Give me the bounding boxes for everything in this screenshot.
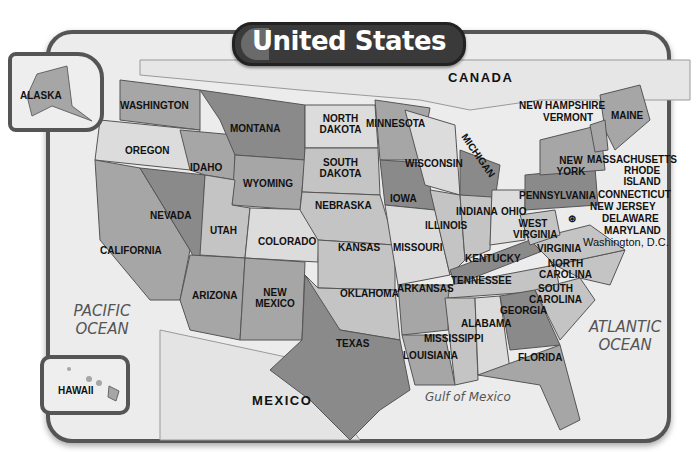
label-new-jersey: NEW JERSEY: [590, 201, 656, 212]
label-vermont: VERMONT: [543, 112, 593, 123]
label-ohio: OHIO: [501, 206, 527, 217]
label-california: CALIFORNIA: [100, 245, 162, 256]
capital-star-icon: ⊛: [568, 213, 576, 224]
label-missouri: MISSOURI: [393, 242, 442, 253]
label-nevada: NEVADA: [150, 210, 191, 221]
label-hawaii: HAWAII: [58, 385, 94, 396]
label-florida: FLORIDA: [518, 352, 562, 363]
label-atlantic-ocean: ATLANTIC OCEAN: [580, 318, 670, 354]
label-louisiana: LOUISIANA: [403, 350, 458, 361]
label-idaho: IDAHO: [190, 162, 222, 173]
label-pacific-ocean: PACIFIC OCEAN: [62, 302, 142, 338]
label-montana: MONTANA: [230, 123, 280, 134]
label-mexico: MEXICO: [252, 395, 312, 406]
title-banner: United States: [232, 22, 466, 66]
label-colorado: COLORADO: [258, 236, 316, 247]
label-indiana: INDIANA: [456, 206, 498, 217]
label-arizona: ARIZONA: [192, 290, 238, 301]
label-north-dakota: NORTH DAKOTA: [318, 113, 363, 135]
label-new-mexico: NEW MEXICO: [255, 287, 295, 309]
label-nebraska: NEBRASKA: [315, 200, 372, 211]
page-title: United States: [235, 26, 463, 56]
label-north-carolina: NORTH CAROLINA: [538, 258, 593, 280]
label-alaska: ALASKA: [20, 90, 62, 101]
label-oklahoma: OKLAHOMA: [340, 288, 399, 299]
label-canada: CANADA: [448, 72, 513, 83]
label-rhode-island: RHODE ISLAND: [622, 165, 662, 187]
label-pennsylvania: PENNSYLVANIA: [519, 190, 596, 201]
label-connecticut: CONNECTICUT: [598, 189, 671, 200]
label-minnesota: MINNESOTA: [366, 118, 425, 129]
label-tennessee: TENNESSEE: [451, 275, 512, 286]
label-wyoming: WYOMING: [243, 178, 293, 189]
label-kansas: KANSAS: [338, 242, 380, 253]
label-delaware: DELAWARE: [602, 213, 659, 224]
label-washington: WASHINGTON: [120, 100, 189, 111]
label-maine: MAINE: [611, 110, 643, 121]
label-new-hampshire: NEW HAMPSHIRE: [519, 100, 605, 111]
label-kentucky: KENTUCKY: [465, 253, 521, 264]
label-virginia: VIRGINIA: [537, 243, 581, 254]
label-new-york: NEW YORK: [556, 155, 586, 177]
label-iowa: IOWA: [390, 193, 417, 204]
label-arkansas: ARKANSAS: [397, 283, 454, 294]
label-illinois: ILLINOIS: [425, 220, 467, 231]
label-south-carolina: SOUTH CAROLINA: [528, 283, 583, 305]
label-south-dakota: SOUTH DAKOTA: [318, 157, 363, 179]
label-texas: TEXAS: [336, 338, 369, 349]
label-alabama: ALABAMA: [461, 318, 512, 329]
label-georgia: GEORGIA: [500, 305, 547, 316]
label-mississippi: MISSISSIPPI: [424, 333, 483, 344]
label-gulf-of-mexico: Gulf of Mexico: [425, 388, 511, 406]
label-wisconsin: WISCONSIN: [405, 158, 463, 169]
label-massachusetts: MASSACHUSETTS: [587, 154, 677, 165]
label-utah: UTAH: [210, 225, 237, 236]
label-maryland: MARYLAND: [604, 225, 661, 236]
label-west-virginia: WEST VIRGINIA: [513, 218, 553, 240]
label-washington-dc: Washington, D.C.: [583, 237, 669, 248]
label-oregon: OREGON: [125, 145, 169, 156]
